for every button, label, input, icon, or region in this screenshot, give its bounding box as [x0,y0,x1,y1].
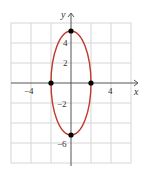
y-axis-label: y [60,9,66,20]
tick-x-neg4: −4 [24,86,34,96]
tick-y-4: 4 [63,38,68,48]
tick-y-neg2: −2 [57,99,67,109]
x-axis-label: x [133,86,139,97]
point-right [88,80,93,85]
chart: x y −4 4 4 2 −2 −6 [0,0,142,172]
point-bottom [68,132,73,137]
tick-x-4: 4 [108,86,113,96]
point-left [48,80,53,85]
tick-y-neg6: −6 [57,139,67,149]
point-top [68,28,73,33]
tick-y-2: 2 [63,58,68,68]
